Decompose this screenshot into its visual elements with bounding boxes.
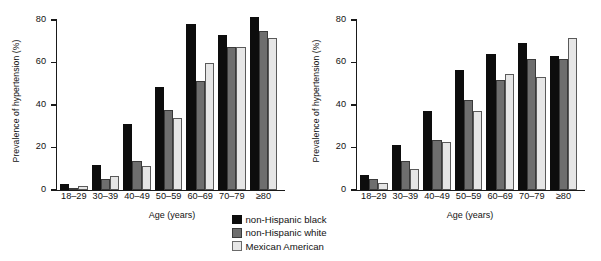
x-tick-label: 18–29 (58, 192, 90, 201)
x-tick-label: 70–79 (216, 192, 248, 201)
legend-swatch-icon (232, 228, 242, 238)
x-tick-label: 70–79 (516, 192, 548, 201)
bar (101, 179, 110, 190)
bar (164, 110, 173, 190)
bar-group (186, 20, 214, 190)
y-tick-label: 20 (324, 142, 346, 151)
bar-group (60, 20, 88, 190)
bar (496, 80, 505, 191)
bar (155, 87, 164, 190)
legend-label: Mexican American (246, 240, 324, 253)
bar-group (486, 20, 514, 190)
x-tick-label: 30–39 (389, 192, 421, 201)
x-tick-label: 30–39 (89, 192, 121, 201)
y-tick-label: 80 (324, 15, 346, 24)
plot-area-right (356, 20, 584, 190)
x-tick-label: ≥80 (247, 192, 279, 201)
bar-group (455, 20, 483, 190)
bar (236, 47, 245, 190)
bar (432, 140, 441, 190)
bar (550, 56, 559, 190)
bar (205, 63, 214, 191)
bar (518, 43, 527, 190)
y-tick-label: 0 (324, 185, 346, 194)
bar (486, 54, 495, 190)
bar (142, 166, 151, 190)
bar (173, 118, 182, 190)
bar (410, 169, 419, 190)
bar-group (155, 20, 183, 190)
bar (132, 161, 141, 190)
y-axis-ticks-left: 020406080 (0, 0, 50, 261)
bar (360, 175, 369, 190)
y-tick-label: 80 (24, 15, 46, 24)
bar (464, 100, 473, 190)
x-tick-label: 40–49 (421, 192, 453, 201)
legend-item: Mexican American (232, 240, 327, 253)
chart-legend: non-Hispanic blacknon-Hispanic whiteMexi… (232, 213, 327, 253)
bar (401, 161, 410, 190)
bar (69, 188, 78, 190)
x-tick-label: ≥80 (547, 192, 579, 201)
y-tick-label: 20 (24, 142, 46, 151)
bar-group (250, 20, 278, 190)
bar (505, 74, 514, 190)
bar (536, 77, 545, 190)
bar (268, 38, 277, 190)
legend-label: non-Hispanic black (246, 213, 327, 226)
bar (92, 165, 101, 191)
legend-item: non-Hispanic white (232, 226, 327, 239)
x-tick-label: 60–69 (184, 192, 216, 201)
legend-swatch-icon (232, 215, 242, 225)
bar (186, 24, 195, 190)
bar (78, 186, 87, 190)
bar (60, 184, 69, 190)
bar (227, 47, 236, 190)
bar (455, 70, 464, 190)
hypertension-prevalence-figure: Prevalence of hypertension (%) 020406080… (0, 0, 601, 261)
bar-group (392, 20, 420, 190)
bar (527, 59, 536, 190)
bar (123, 124, 132, 190)
bar (369, 179, 378, 190)
y-tick-label: 60 (324, 57, 346, 66)
bar-group (518, 20, 546, 190)
plot-area-left (56, 20, 284, 190)
bar (392, 145, 401, 190)
x-tick-label: 18–29 (358, 192, 390, 201)
y-tick-label: 0 (24, 185, 46, 194)
bar-group (92, 20, 120, 190)
chart-panel-right: Prevalence of hypertension (%) 020406080… (300, 0, 600, 261)
bar-group (360, 20, 388, 190)
bar (259, 31, 268, 190)
y-tick-label: 60 (24, 57, 46, 66)
legend-item: non-Hispanic black (232, 213, 327, 226)
bar (559, 59, 568, 190)
x-tick-label: 60–69 (484, 192, 516, 201)
x-tick-label: 40–49 (121, 192, 153, 201)
legend-label: non-Hispanic white (246, 226, 327, 239)
y-tick-label: 40 (324, 100, 346, 109)
y-tick-label: 40 (24, 100, 46, 109)
bar (442, 142, 451, 190)
bar (568, 38, 577, 190)
x-tick-label: 50–59 (453, 192, 485, 201)
bar-group (423, 20, 451, 190)
bar-group (550, 20, 578, 190)
bar (218, 35, 227, 190)
bar-group (218, 20, 246, 190)
bar (378, 183, 387, 190)
x-axis-label-right: Age (years) (300, 210, 600, 220)
bar (110, 176, 119, 190)
legend-swatch-icon (232, 241, 242, 251)
bar-group (123, 20, 151, 190)
bar (473, 111, 482, 190)
bar (196, 81, 205, 190)
bar (250, 17, 259, 190)
x-tick-label: 50–59 (153, 192, 185, 201)
bar (423, 111, 432, 190)
